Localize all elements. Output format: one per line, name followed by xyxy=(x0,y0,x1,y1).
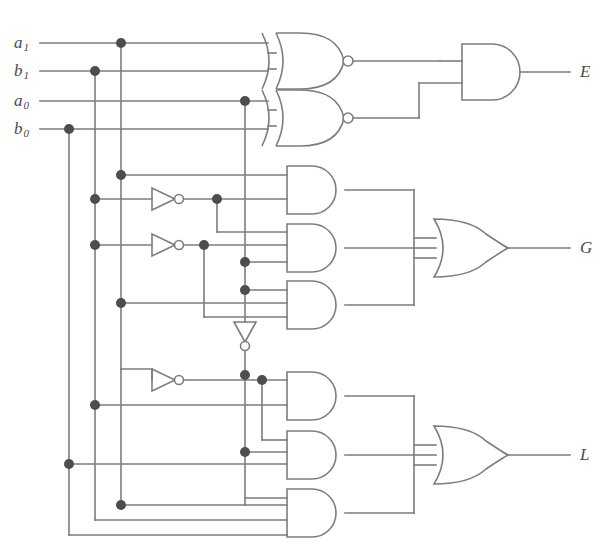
junction-dot xyxy=(116,38,126,48)
inverter-4[interactable] xyxy=(152,369,184,391)
inv3-bubble xyxy=(241,342,250,351)
and-l3-body xyxy=(287,489,336,537)
junction-dot xyxy=(240,257,250,267)
junction-dot xyxy=(240,96,250,106)
inv2-bubble xyxy=(175,241,184,250)
xnor-body xyxy=(276,33,344,89)
xnor2-back-arc xyxy=(262,90,269,146)
xnor-back-arc xyxy=(262,33,269,89)
or-g-body xyxy=(434,219,508,277)
and-l1-body xyxy=(287,372,336,420)
input-label-b1-base: b xyxy=(14,61,23,80)
and-gate-less-2[interactable] xyxy=(287,431,336,479)
xnor-gate-low-bit[interactable] xyxy=(262,90,353,146)
input-label-a1-base: a xyxy=(14,33,23,52)
and-gate-greater-3[interactable] xyxy=(287,281,336,329)
xnor-bubble xyxy=(343,56,353,66)
junction-dot xyxy=(116,170,126,180)
and-gate-equal[interactable] xyxy=(462,44,520,100)
circuit-diagram-canvas: a1 b1 a0 b0 E G L xyxy=(0,0,608,554)
junction-dot xyxy=(240,447,250,457)
junction-dot xyxy=(64,124,74,134)
and-gate-greater-2[interactable] xyxy=(287,224,336,272)
inv1-bubble xyxy=(175,195,184,204)
inv4-bubble xyxy=(175,376,184,385)
input-label-a0-base: a xyxy=(14,91,23,110)
junction-dot xyxy=(116,298,126,308)
input-label-b0-base: b xyxy=(14,119,23,138)
or-gate-less[interactable] xyxy=(434,426,508,484)
wire-layer xyxy=(40,43,570,535)
inverter-1[interactable] xyxy=(152,188,184,210)
input-label-b1-sub: 1 xyxy=(23,69,30,81)
gate-layer xyxy=(152,33,520,537)
and-g3-body xyxy=(287,281,336,329)
junction-dot xyxy=(90,194,100,204)
input-label-a0-sub: 0 xyxy=(23,99,30,111)
xnor-inner-arc xyxy=(276,33,283,89)
junction-dot xyxy=(116,500,126,510)
and-e-body xyxy=(462,44,520,100)
xnor2-bubble xyxy=(343,113,353,123)
inverter-3[interactable] xyxy=(234,322,256,351)
or-l-body xyxy=(434,426,508,484)
junction-dot xyxy=(64,459,74,469)
junction-dot xyxy=(90,400,100,410)
output-label-G: G xyxy=(580,238,592,258)
input-label-b0-sub: 0 xyxy=(23,127,30,139)
junction-dot xyxy=(240,285,250,295)
or-gate-greater[interactable] xyxy=(434,219,508,277)
xnor2-inner-arc xyxy=(276,90,283,146)
junction-dot xyxy=(199,240,209,250)
xnor-gate-high-bit[interactable] xyxy=(262,33,353,89)
and-g1-body xyxy=(287,166,336,214)
and-g2-body xyxy=(287,224,336,272)
and-l2-body xyxy=(287,431,336,479)
junction-dot xyxy=(257,375,267,385)
junction-dot xyxy=(240,370,250,380)
output-label-E: E xyxy=(580,62,590,82)
junction-dot xyxy=(90,240,100,250)
inv4-triangle xyxy=(152,369,175,391)
and-gate-less-3[interactable] xyxy=(287,489,336,537)
input-label-a1-sub: 1 xyxy=(23,41,30,53)
input-label-b0: b0 xyxy=(14,119,29,139)
input-label-b1: b1 xyxy=(14,61,29,81)
xnor2-body xyxy=(276,90,344,146)
and-gate-greater-1[interactable] xyxy=(287,166,336,214)
input-label-a0: a0 xyxy=(14,91,29,111)
inv2-triangle xyxy=(152,234,175,256)
junction-dot xyxy=(90,66,100,76)
inv3-triangle xyxy=(234,322,256,342)
inverter-2[interactable] xyxy=(152,234,184,256)
inv1-triangle xyxy=(152,188,175,210)
output-label-L: L xyxy=(580,445,589,465)
and-gate-less-1[interactable] xyxy=(287,372,336,420)
input-label-a1: a1 xyxy=(14,33,29,53)
logic-circuit-svg xyxy=(0,0,608,554)
junction-dot xyxy=(212,194,222,204)
